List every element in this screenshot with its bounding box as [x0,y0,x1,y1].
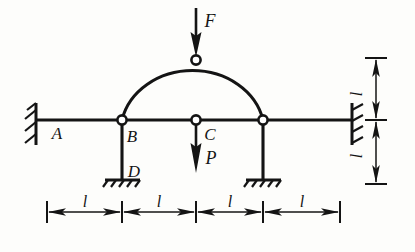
label-point-B: B [127,127,138,146]
wall-hatch-left-3 [25,134,36,143]
label-point-A: A [51,124,63,143]
label-point-D: D [127,162,141,181]
wall-hatch-left-1 [25,110,36,119]
hinge-E [258,115,267,124]
dim-label-v-1: l [348,91,365,96]
hinge-B [117,115,126,124]
hinge-C [191,115,200,124]
label-force-F: F [204,11,217,31]
label-force-P: P [205,148,217,168]
support-ground-D [103,180,140,187]
wall-hatch-right-2 [352,115,363,121]
hinge-crown [191,55,200,64]
dimension-horizontal: l l l l [47,193,340,223]
diagram-canvas: A B C D F P l l [0,0,415,252]
dim-label-h-2: l [157,193,162,210]
wall-hatch-left-2 [25,122,36,131]
dim-label-h-1: l [83,193,88,210]
structural-diagram-figure: A B C D F P l l [0,0,415,252]
support-left-wall [25,103,36,145]
dim-label-h-3: l [228,193,233,210]
semicircular-arch [122,71,263,120]
force-F [191,8,202,57]
wall-hatch-right-4 [352,137,363,143]
wall-hatch-right-1 [352,104,363,110]
dim-label-v-2: l [348,153,365,158]
dim-label-h-4: l [300,193,305,210]
force-P [191,124,202,173]
wall-hatch-right-3 [352,126,363,132]
support-ground-G [244,180,281,187]
label-point-C: C [204,125,216,144]
support-right-wall [352,103,363,145]
force-P-arrowhead [191,143,202,173]
